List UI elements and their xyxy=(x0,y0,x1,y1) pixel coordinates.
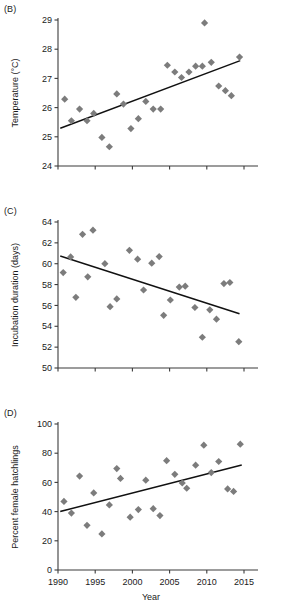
data-point-marker xyxy=(60,498,67,505)
data-point-marker xyxy=(215,458,222,465)
y-tick-label: 80 xyxy=(42,448,52,458)
data-point-marker xyxy=(135,506,142,513)
data-point-marker xyxy=(199,63,206,70)
data-point-marker xyxy=(68,509,75,516)
data-point-marker xyxy=(237,441,244,448)
y-tick-label: 56 xyxy=(42,301,52,311)
data-point-marker xyxy=(79,231,86,238)
x-tick-label: 2000 xyxy=(122,577,142,587)
data-point-marker xyxy=(192,462,199,469)
data-point-marker xyxy=(228,92,235,99)
data-point-marker xyxy=(163,457,170,464)
y-tick-label: 27 xyxy=(42,74,52,84)
panel-b-temperature: (B) Temperature (°C) 242526272829 xyxy=(0,0,284,202)
data-point-marker xyxy=(208,469,215,476)
data-point-marker xyxy=(164,62,171,69)
panel-c-label: (C) xyxy=(4,206,17,216)
data-point-marker xyxy=(113,295,120,302)
data-point-marker xyxy=(167,296,174,303)
data-point-marker xyxy=(98,530,105,537)
y-tick-label: 60 xyxy=(42,478,52,488)
data-point-marker xyxy=(199,334,206,341)
data-point-marker xyxy=(106,501,113,508)
data-point-marker xyxy=(135,115,142,122)
data-point-marker xyxy=(106,303,113,310)
data-point-marker xyxy=(150,505,157,512)
panel-c-plot-area: 5052545658606264 xyxy=(16,216,284,404)
data-point-marker xyxy=(171,471,178,478)
data-point-marker xyxy=(98,134,105,141)
y-tick-label: 24 xyxy=(42,161,52,171)
data-point-marker xyxy=(84,273,91,280)
data-point-marker xyxy=(134,256,141,263)
data-point-marker xyxy=(201,19,208,26)
data-point-marker xyxy=(156,253,163,260)
x-tick-label: 1995 xyxy=(85,577,105,587)
y-tick-label: 100 xyxy=(37,419,52,429)
data-point-marker xyxy=(148,260,155,267)
x-tick-label: 2005 xyxy=(160,577,180,587)
panel-b-label: (B) xyxy=(4,4,16,14)
panel-d-plot-area: 020406080100199019952000200520102015 xyxy=(16,418,284,614)
data-point-marker xyxy=(117,475,124,482)
data-point-marker xyxy=(142,477,149,484)
data-point-marker xyxy=(160,312,167,319)
y-tick-label: 0 xyxy=(47,565,52,575)
data-point-marker xyxy=(206,306,213,313)
data-point-marker xyxy=(192,63,199,70)
data-point-marker xyxy=(113,90,120,97)
y-tick-label: 29 xyxy=(42,15,52,25)
data-point-marker xyxy=(60,269,67,276)
data-point-marker xyxy=(126,247,133,254)
data-point-marker xyxy=(236,53,243,60)
y-tick-label: 62 xyxy=(42,238,52,248)
data-point-marker xyxy=(213,316,220,323)
data-point-marker xyxy=(113,465,120,472)
y-tick-label: 58 xyxy=(42,280,52,290)
data-point-marker xyxy=(235,338,242,345)
data-point-marker xyxy=(140,286,147,293)
data-point-marker xyxy=(61,96,68,103)
data-point-marker xyxy=(208,59,215,66)
data-point-marker xyxy=(226,279,233,286)
data-point-marker xyxy=(176,283,183,290)
data-point-marker xyxy=(220,280,227,287)
data-point-marker xyxy=(183,485,190,492)
data-point-marker xyxy=(157,105,164,112)
y-tick-label: 40 xyxy=(42,507,52,517)
data-point-marker xyxy=(90,489,97,496)
data-point-marker xyxy=(185,68,192,75)
y-tick-label: 26 xyxy=(42,103,52,113)
data-point-marker xyxy=(101,260,108,267)
x-tick-label: 2015 xyxy=(234,577,254,587)
data-point-marker xyxy=(72,294,79,301)
x-tick-label: 1990 xyxy=(48,577,68,587)
y-tick-label: 20 xyxy=(42,536,52,546)
y-tick-label: 28 xyxy=(42,44,52,54)
x-tick-label: 2010 xyxy=(197,577,217,587)
y-tick-label: 60 xyxy=(42,259,52,269)
data-point-marker xyxy=(127,514,134,521)
data-point-marker xyxy=(76,473,83,480)
data-point-marker xyxy=(76,105,83,112)
y-tick-label: 25 xyxy=(42,132,52,142)
data-point-marker xyxy=(178,74,185,81)
data-point-marker xyxy=(171,68,178,75)
panel-d-label: (D) xyxy=(4,408,17,418)
data-point-marker xyxy=(83,522,90,529)
data-point-marker xyxy=(83,117,90,124)
data-point-marker xyxy=(191,304,198,311)
data-point-marker xyxy=(150,105,157,112)
data-point-marker xyxy=(120,100,127,107)
panel-d-x-axis-label: Year xyxy=(58,592,244,602)
y-tick-label: 64 xyxy=(42,217,52,227)
data-point-marker xyxy=(182,283,189,290)
data-point-marker xyxy=(222,87,229,94)
data-point-marker xyxy=(89,227,96,234)
y-tick-label: 52 xyxy=(42,342,52,352)
data-point-marker xyxy=(215,82,222,89)
data-point-marker xyxy=(106,143,113,150)
panel-c-incubation: (C) Incubation duration (days) 505254565… xyxy=(0,202,284,404)
panel-d-percent-female: (D) Percent female hatchlings 0204060801… xyxy=(0,404,284,614)
data-point-marker xyxy=(156,512,163,519)
